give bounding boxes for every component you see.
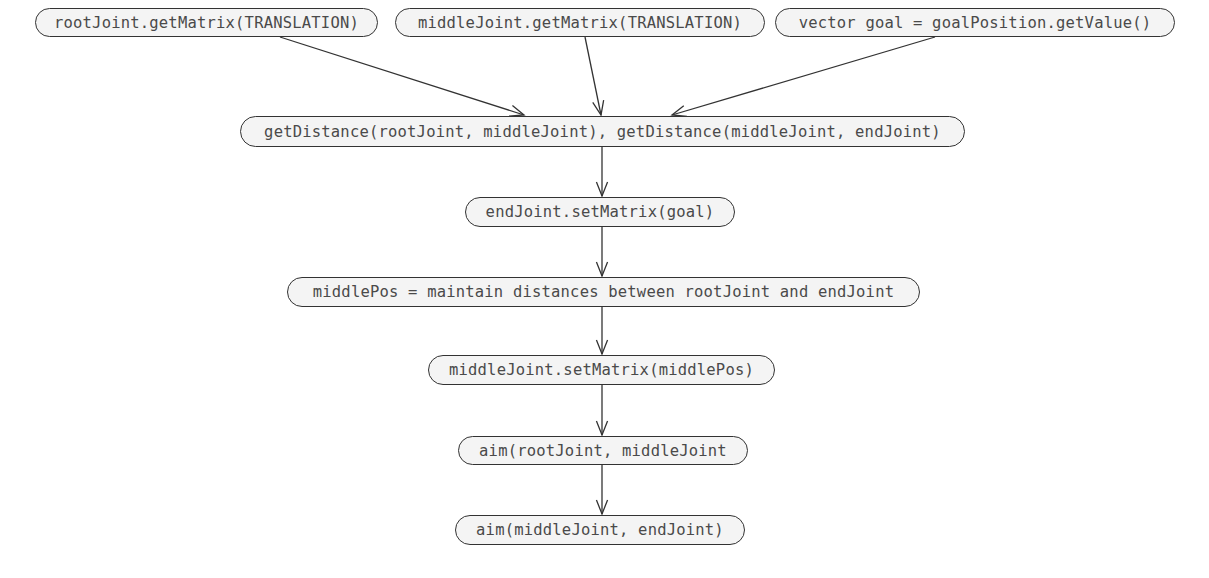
- node-end-joint-set-matrix: endJoint.setMatrix(goal): [465, 197, 735, 227]
- node-middle-joint-get-matrix: middleJoint.getMatrix(TRANSLATION): [395, 8, 765, 37]
- arrow-n4-to-n5: [596, 147, 607, 196]
- arrow-n1-to-n4: [280, 37, 524, 116]
- arrow-n2-to-n4: [585, 37, 604, 115]
- node-goal-position-get-value: vector goal = goalPosition.getValue(): [775, 8, 1175, 37]
- arrow-n3-to-n4: [672, 37, 935, 116]
- node-middle-joint-set-matrix: middleJoint.setMatrix(middlePos): [428, 355, 775, 385]
- node-aim-middle-end: aim(middleJoint, endJoint): [455, 515, 745, 545]
- node-middle-pos-maintain-distances: middlePos = maintain distances between r…: [287, 277, 920, 307]
- arrow-n7-to-n8: [596, 385, 607, 435]
- flowchart-diagram: rootJoint.getMatrix(TRANSLATION) middleJ…: [0, 0, 1209, 578]
- node-get-distance: getDistance(rootJoint, middleJoint), get…: [240, 116, 965, 147]
- arrow-n8-to-n9: [596, 465, 607, 514]
- node-root-joint-get-matrix: rootJoint.getMatrix(TRANSLATION): [35, 8, 378, 37]
- arrow-n5-to-n6: [596, 227, 607, 276]
- arrow-n6-to-n7: [596, 307, 607, 354]
- node-aim-root-middle: aim(rootJoint, middleJoint: [458, 436, 748, 465]
